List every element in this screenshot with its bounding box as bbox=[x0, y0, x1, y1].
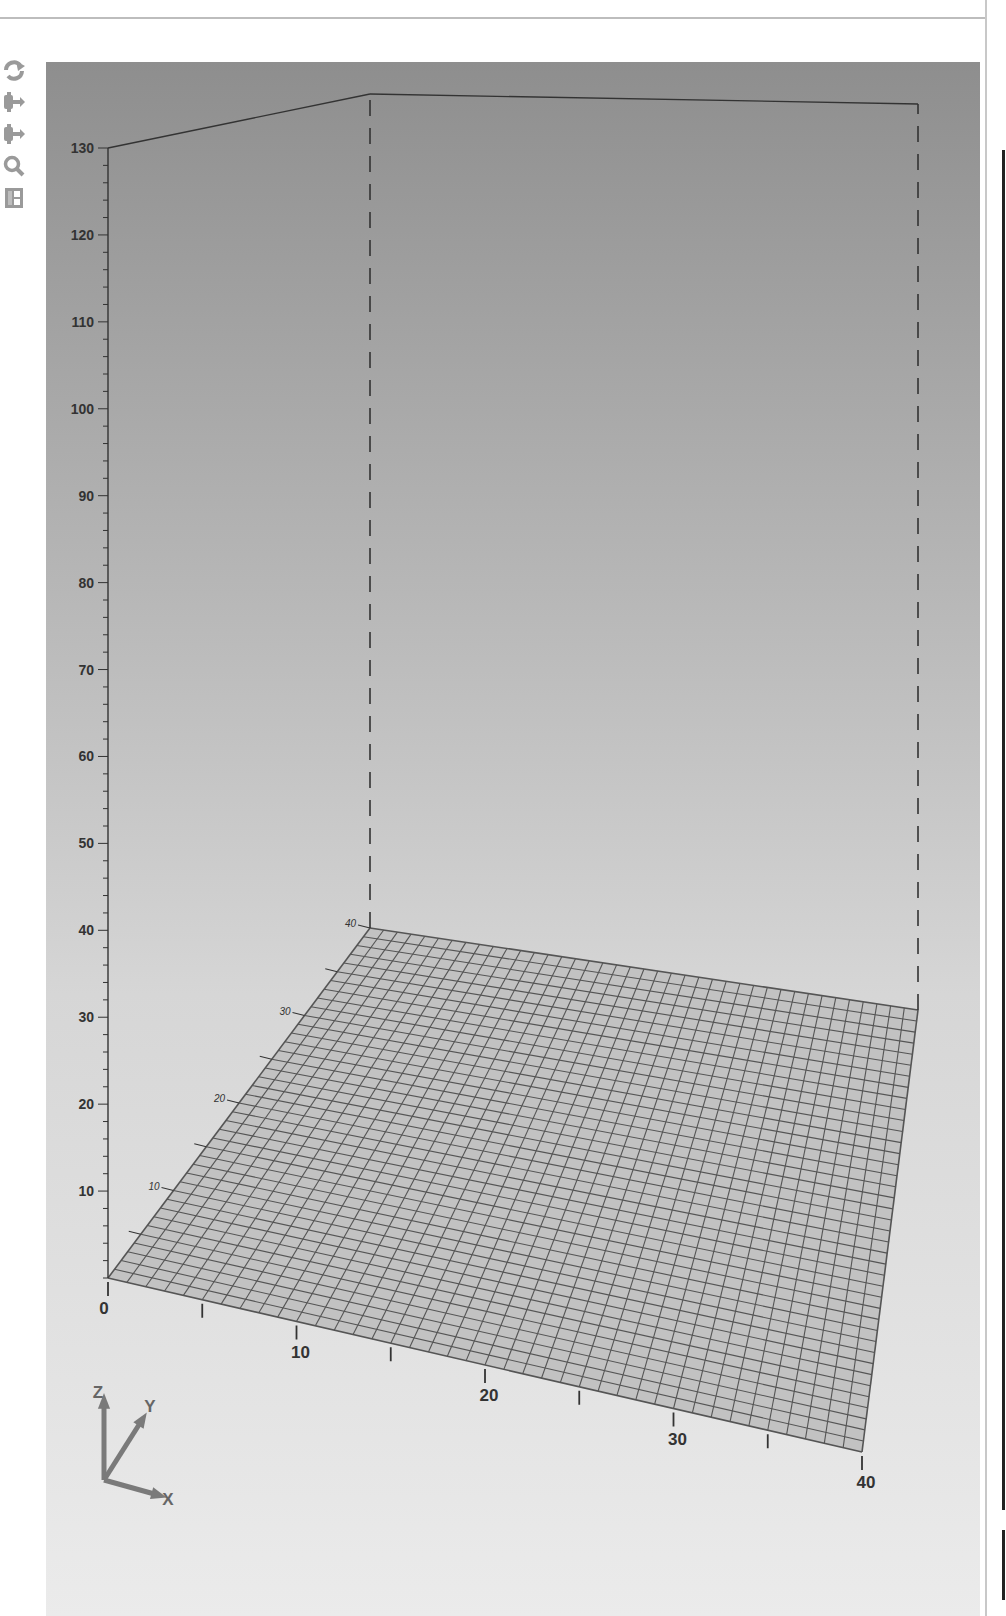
rotate-icon bbox=[2, 58, 26, 82]
layout-icon bbox=[2, 186, 26, 210]
svg-text:10: 10 bbox=[148, 1181, 160, 1192]
svg-text:40: 40 bbox=[78, 922, 94, 938]
top-divider bbox=[0, 17, 985, 19]
pan-button[interactable] bbox=[0, 88, 28, 116]
svg-text:Z: Z bbox=[93, 1383, 103, 1402]
svg-text:20: 20 bbox=[78, 1096, 94, 1112]
3d-surface-plot[interactable]: 102030405060708090100110120130 010203040… bbox=[46, 62, 980, 1616]
svg-text:10: 10 bbox=[291, 1343, 310, 1362]
pan-icon bbox=[2, 90, 26, 114]
svg-text:40: 40 bbox=[857, 1473, 876, 1492]
svg-text:100: 100 bbox=[71, 401, 95, 417]
svg-text:X: X bbox=[162, 1490, 174, 1509]
svg-text:Y: Y bbox=[144, 1397, 156, 1416]
svg-text:30: 30 bbox=[668, 1430, 687, 1449]
svg-text:60: 60 bbox=[78, 748, 94, 764]
pan-alt-icon bbox=[2, 122, 26, 146]
right-panel-frame bbox=[1002, 150, 1005, 1510]
svg-text:90: 90 bbox=[78, 488, 94, 504]
plot-toolbar bbox=[0, 56, 30, 216]
layout-button[interactable] bbox=[0, 184, 28, 212]
svg-text:120: 120 bbox=[71, 227, 95, 243]
svg-text:30: 30 bbox=[279, 1006, 291, 1017]
svg-text:20: 20 bbox=[480, 1386, 499, 1405]
right-panel-frame-lower bbox=[1002, 1530, 1005, 1600]
svg-text:110: 110 bbox=[71, 314, 94, 330]
svg-text:0: 0 bbox=[99, 1299, 108, 1318]
svg-text:80: 80 bbox=[78, 575, 94, 591]
svg-text:40: 40 bbox=[345, 918, 357, 929]
3d-plot-area[interactable]: 102030405060708090100110120130 010203040… bbox=[46, 62, 980, 1616]
svg-text:70: 70 bbox=[78, 662, 94, 678]
zoom-button[interactable] bbox=[0, 152, 28, 180]
svg-text:20: 20 bbox=[213, 1093, 226, 1104]
zoom-icon bbox=[2, 154, 26, 178]
svg-text:10: 10 bbox=[78, 1183, 94, 1199]
panel-divider[interactable] bbox=[985, 0, 987, 1616]
move-button[interactable] bbox=[0, 120, 28, 148]
svg-text:30: 30 bbox=[78, 1009, 94, 1025]
rotate-button[interactable] bbox=[0, 56, 28, 84]
svg-text:50: 50 bbox=[78, 835, 94, 851]
svg-text:130: 130 bbox=[71, 140, 95, 156]
